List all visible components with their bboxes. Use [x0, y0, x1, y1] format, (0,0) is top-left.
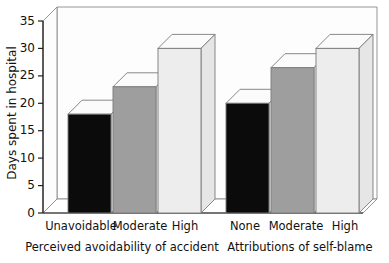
bar-side-face: [201, 34, 215, 213]
bar-g2-high: [316, 34, 373, 213]
bar-chart-figure: 0 5 10 15 20 25 30 35 Days spent in hosp…: [0, 0, 389, 263]
cat-label-moderate-1: Moderate: [113, 219, 168, 233]
cat-label-none: None: [230, 219, 260, 233]
y-tick-label-15: 15: [20, 123, 35, 137]
cat-label-high-1: High: [172, 219, 198, 233]
bar-front-face: [68, 114, 111, 213]
cat-label-unavoidable: Unavoidable: [45, 219, 117, 233]
bar-front-face: [226, 103, 269, 213]
y-tick-label-35: 35: [20, 14, 35, 28]
group-title-avoidability: Perceived avoidability of accident: [25, 240, 219, 254]
y-tick-label-25: 25: [20, 68, 35, 82]
bar-front-face: [316, 48, 359, 213]
y-tick-label-10: 10: [20, 151, 35, 165]
bar-g1-high: [158, 34, 215, 213]
y-tick-labels: 0 5 10 15 20 25 30 35: [20, 14, 35, 220]
chart-canvas: 0 5 10 15 20 25 30 35 Days spent in hosp…: [0, 0, 389, 263]
bar-side-face: [359, 34, 373, 213]
y-tick-label-0: 0: [27, 206, 35, 220]
bar-front-face: [271, 68, 314, 213]
group-titles: Perceived avoidability of accident Attri…: [25, 240, 372, 254]
y-tick-label-30: 30: [20, 41, 35, 55]
cat-label-moderate-2: Moderate: [269, 219, 324, 233]
cat-label-high-2: High: [332, 219, 358, 233]
left-wall: [43, 7, 57, 213]
bar-front-face: [113, 87, 156, 213]
bar-front-face: [158, 48, 201, 213]
y-tick-label-5: 5: [27, 178, 35, 192]
y-tick-label-20: 20: [20, 96, 35, 110]
y-axis-title: Days spent in hospital: [5, 46, 19, 179]
group-title-self-blame: Attributions of self-blame: [227, 240, 372, 254]
category-labels: Unavoidable Moderate High None Moderate …: [45, 219, 358, 233]
